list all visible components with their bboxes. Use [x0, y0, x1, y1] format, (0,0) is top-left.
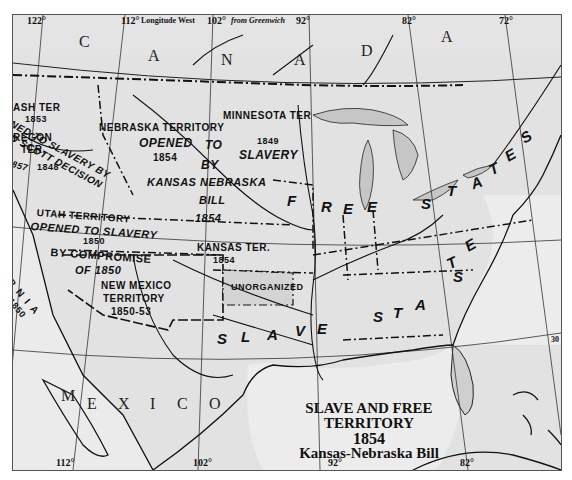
washington-ter-label: ASH TER [13, 103, 60, 113]
free-states-letter-s1: S [421, 196, 432, 211]
kansas-nebraska-label: KANSAS NEBRASKA [147, 177, 266, 188]
slave-states-letter-a1: A [267, 327, 278, 342]
mexico-letter-i: I [150, 395, 155, 413]
unorganized-label: UNORGANIZED [231, 283, 304, 292]
oregon-ter-suffix: TER. [21, 145, 46, 155]
utah-year: 1850 [83, 237, 105, 246]
lon-label-92-top: 92° [296, 15, 310, 26]
slave-states-letter-e1: E [317, 321, 328, 336]
slave-states-letter-s3: S [453, 269, 464, 284]
oregon-ter-year: 1848 [37, 163, 59, 172]
mexico-letter-c: C [177, 395, 188, 413]
nebraska-territory-label: NEBRASKA TERRITORY [99, 123, 224, 133]
mexico-letter-e: E [87, 395, 97, 413]
nebraska-by: BY [201, 159, 219, 171]
minnesota-slavery: SLAVERY [239, 149, 298, 161]
nebraska-to: TO [205, 139, 222, 151]
lon-header-text: Longitude West [141, 16, 195, 25]
map-title-line2: TERRITORY [269, 416, 469, 431]
bill-label: BILL [199, 195, 225, 206]
bill-year: 1854 [195, 213, 221, 224]
new-mexico-label: NEW MEXICO [101, 281, 172, 291]
lon-label-112-bottom: 112° [56, 457, 74, 468]
canada-letter-a3: A [441, 28, 453, 46]
lon-label-102-bottom: 102° [193, 457, 212, 468]
slave-states-letter-s2: S [373, 309, 384, 324]
free-states-letter-e2: E [367, 199, 378, 214]
canada-letter-n: N [221, 51, 233, 69]
mexico-letter-o: O [209, 395, 221, 413]
map-title-line1: SLAVE AND FREE [269, 401, 469, 416]
slave-states-letter-s1: S [217, 331, 228, 346]
lon-header-from: from Greenwich [231, 16, 285, 25]
new-mexico-years: 1850-53 [111, 307, 151, 317]
lon-label-112-top: 112° [121, 15, 139, 26]
map-title-year: 1854 [269, 431, 469, 446]
map-title-block: SLAVE AND FREE TERRITORY 1854 Kansas-Neb… [269, 401, 469, 461]
canada-letter-d: D [361, 42, 373, 60]
canada-letter-a1: A [148, 47, 160, 65]
washington-ter-year: 1853 [25, 115, 47, 124]
slave-states-letter-t: T [393, 305, 403, 320]
canada-letter-a2: A [294, 51, 306, 69]
map-subtitle: Kansas-Nebraska Bill [269, 446, 469, 461]
free-states-letter-t1: T [447, 183, 457, 198]
free-states-letter-e1: E [343, 201, 354, 216]
oregon-ter-label: REGON [13, 133, 52, 143]
new-mexico-territory-label: TERRITORY [103, 294, 165, 304]
utah-of-1850: OF 1850 [75, 265, 121, 276]
canada-letter-c: C [79, 33, 90, 51]
map-frame: 122° 112° Longitude West 102° from Green… [12, 14, 562, 471]
nebraska-year: 1854 [153, 153, 177, 163]
kansas-ter-year: 1854 [213, 256, 235, 265]
lon-label-82-top: 82° [402, 15, 416, 26]
lat-label-30: 30 [551, 335, 559, 344]
lon-label-72-top: 72° [499, 15, 513, 26]
slave-states-letter-a2: A [415, 297, 426, 312]
lon-label-122-top: 122° [27, 15, 46, 26]
slave-states-letter-v: V [295, 323, 306, 338]
free-states-letter-r: R [321, 199, 332, 214]
slave-states-letter-l: L [241, 329, 251, 344]
mexico-letter-x: X [118, 395, 130, 413]
kansas-ter-label: KANSAS TER. [197, 243, 270, 253]
mexico-letter-m: M [61, 387, 75, 405]
minnesota-ter-label: MINNESOTA TER [223, 111, 311, 121]
free-states-letter-f: F [287, 193, 297, 208]
nebraska-opened: OPENED [139, 137, 193, 149]
lon-label-102-top: 102° [207, 15, 226, 26]
minnesota-year: 1849 [257, 137, 279, 146]
